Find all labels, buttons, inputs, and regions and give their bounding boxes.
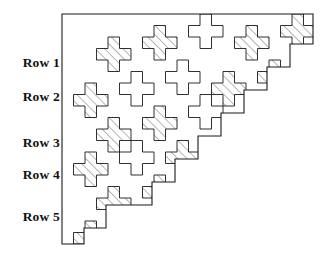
- tile-shaded: [74, 83, 109, 118]
- tile-shaded: [74, 221, 109, 255]
- tile-outline: [235, 106, 270, 141]
- row-label-1-text: Row 1: [23, 55, 60, 70]
- tile-outline: [166, 60, 201, 95]
- tile-shaded: [258, 60, 293, 95]
- tile-shaded: [97, 187, 132, 222]
- row-label-3-text: Row 3: [23, 135, 60, 150]
- tiling-diagram-figure: Row 1 Row 2 Row 3 Row 4 Row 5: [0, 0, 332, 255]
- row-label-4: Row 4: [23, 168, 60, 182]
- tile-outline: [120, 72, 155, 107]
- tile-shaded: [97, 37, 132, 72]
- hatched-tiles-layer: [74, 14, 316, 255]
- tile-shaded: [235, 26, 270, 61]
- tile-outline: [189, 14, 224, 49]
- tile-shaded: [235, 106, 270, 141]
- tile-shaded: [143, 175, 178, 210]
- tile-shaded: [212, 72, 247, 107]
- row-label-1: Row 1: [23, 56, 60, 70]
- tile-shaded: [166, 141, 201, 176]
- tile-shaded: [74, 152, 109, 187]
- tile-shaded: [281, 14, 316, 49]
- row-label-2-text: Row 2: [23, 89, 60, 104]
- tile-outline: [120, 141, 155, 176]
- row-label-5: Row 5: [23, 210, 60, 224]
- tile-shaded: [143, 26, 178, 61]
- row-label-2: Row 2: [23, 90, 60, 104]
- tile-shaded: [212, 141, 247, 176]
- row-label-5-text: Row 5: [23, 209, 60, 224]
- tile-outline: [212, 141, 247, 176]
- tile-shaded: [143, 106, 178, 141]
- tile-outline: [189, 95, 224, 130]
- tile-shaded: [97, 118, 132, 153]
- row-label-4-text: Row 4: [23, 167, 60, 182]
- row-label-3: Row 3: [23, 136, 60, 150]
